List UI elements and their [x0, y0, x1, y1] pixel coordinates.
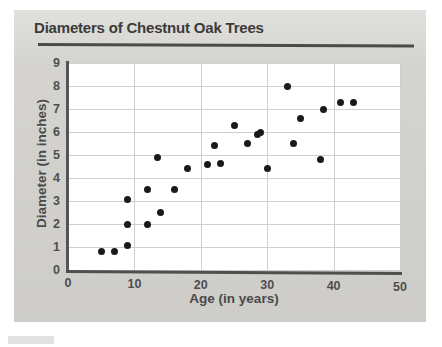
scatter-point	[98, 248, 105, 255]
gridline-horizontal	[68, 109, 400, 110]
gridline-horizontal	[68, 155, 400, 156]
scatter-point	[157, 209, 164, 216]
scatter-point	[290, 140, 297, 147]
scatter-point	[257, 129, 264, 136]
gridline-vertical	[201, 63, 202, 270]
scatter-point	[124, 242, 131, 249]
plot-area[interactable]	[68, 63, 400, 270]
scatter-point	[171, 186, 178, 193]
gridline-horizontal	[68, 178, 400, 179]
gridline-horizontal	[68, 132, 400, 133]
scatter-point	[231, 122, 238, 129]
scatter-point	[184, 165, 191, 172]
gridline-horizontal	[68, 201, 400, 202]
scatter-point	[320, 106, 327, 113]
gridline-vertical	[334, 63, 335, 270]
scatter-point	[111, 248, 118, 255]
scatter-point	[217, 160, 224, 167]
scatter-point	[144, 186, 151, 193]
scatter-point	[204, 161, 211, 168]
gridline-horizontal	[68, 63, 400, 64]
scatter-point	[244, 140, 251, 147]
scatter-point	[350, 99, 357, 106]
gridline-horizontal	[68, 224, 400, 225]
scatter-point	[211, 142, 218, 149]
scatter-point	[264, 165, 271, 172]
page-title: Diameters of Chestnut Oak Trees	[34, 19, 264, 36]
scatter-point	[124, 196, 131, 203]
scatter-point	[284, 83, 291, 90]
scatter-point	[144, 221, 151, 228]
scatter-point	[337, 99, 344, 106]
page-root: Diameters of Chestnut Oak Trees 01234567…	[0, 0, 442, 347]
gridline-horizontal	[68, 86, 400, 87]
scatter-point	[297, 115, 304, 122]
gridline-vertical	[400, 63, 401, 270]
scatter-point	[154, 154, 161, 161]
scatter-point	[124, 221, 131, 228]
gridline-horizontal	[68, 247, 400, 248]
gridline-vertical	[134, 63, 135, 270]
scatter-point	[317, 156, 324, 163]
page-edge-mark	[8, 336, 54, 344]
